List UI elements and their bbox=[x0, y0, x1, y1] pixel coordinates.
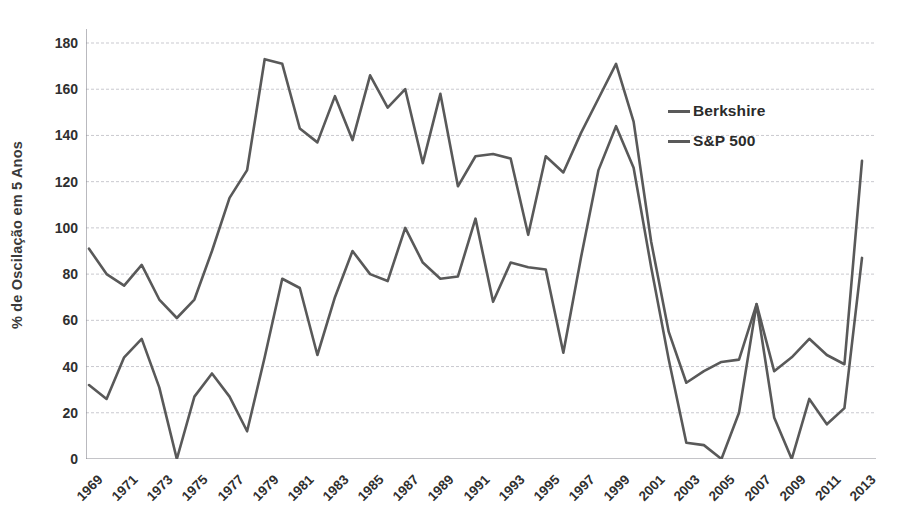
x-axis-tick-label: 1975 bbox=[172, 472, 211, 511]
y-axis-tick-label: 80 bbox=[18, 266, 78, 282]
y-axis-tick-label: 140 bbox=[18, 127, 78, 143]
chart-svg bbox=[86, 16, 876, 459]
x-axis-tick-label: 1983 bbox=[313, 472, 352, 511]
x-axis-tick-label: 1991 bbox=[453, 472, 492, 511]
x-axis-tick-labels: 1969197119731975197719791981198319851987… bbox=[0, 466, 919, 530]
y-axis-tick-label: 180 bbox=[18, 35, 78, 51]
x-axis-tick-label: 1977 bbox=[207, 472, 246, 511]
x-axis-tick-label: 1993 bbox=[488, 472, 527, 511]
legend-swatch-sp500 bbox=[668, 140, 690, 143]
y-axis-tick-label: 120 bbox=[18, 174, 78, 190]
x-axis-tick-label: 1973 bbox=[137, 472, 176, 511]
y-axis-tick-label: 100 bbox=[18, 220, 78, 236]
x-axis-tick-label: 2005 bbox=[699, 472, 738, 511]
x-axis-tick-label: 1995 bbox=[523, 472, 562, 511]
x-axis-tick-label: 1997 bbox=[559, 472, 598, 511]
y-axis-tick-labels: 020406080100120140160180 bbox=[14, 0, 78, 530]
series-line-s-p-500 bbox=[89, 126, 862, 459]
x-axis-tick-label: 2007 bbox=[734, 472, 773, 511]
y-axis-tick-label: 0 bbox=[18, 451, 78, 467]
y-axis-tick-label: 60 bbox=[18, 312, 78, 328]
x-axis-tick-label: 1981 bbox=[278, 472, 317, 511]
legend-item-sp500[interactable]: S&P 500 bbox=[668, 126, 765, 156]
x-axis-tick-label: 1985 bbox=[348, 472, 387, 511]
legend-item-berkshire[interactable]: Berkshire bbox=[668, 96, 765, 126]
legend-label-sp500: S&P 500 bbox=[693, 132, 755, 150]
x-axis-tick-label: 2013 bbox=[840, 472, 879, 511]
y-axis-tick-label: 40 bbox=[18, 359, 78, 375]
x-axis-tick-label: 2011 bbox=[805, 472, 844, 511]
plot-area bbox=[86, 16, 876, 459]
legend-label-berkshire: Berkshire bbox=[693, 102, 765, 120]
x-axis-tick-label: 1999 bbox=[594, 472, 633, 511]
x-axis-tick-label: 2003 bbox=[664, 472, 703, 511]
x-axis-tick-label: 1989 bbox=[418, 472, 457, 511]
legend-swatch-berkshire bbox=[668, 110, 690, 113]
x-axis-tick-label: 2009 bbox=[769, 472, 808, 511]
x-axis-tick-label: 2001 bbox=[629, 472, 668, 511]
x-axis-tick-label: 1969 bbox=[67, 472, 106, 511]
chart-container: % de Oscilação em 5 Anos 020406080100120… bbox=[0, 0, 919, 530]
y-axis-tick-label: 160 bbox=[18, 81, 78, 97]
y-axis-tick-label: 20 bbox=[18, 405, 78, 421]
x-axis-tick-label: 1979 bbox=[242, 472, 281, 511]
x-axis-tick-label: 1971 bbox=[102, 472, 141, 511]
chart-legend: Berkshire S&P 500 bbox=[668, 96, 765, 156]
x-axis-tick-label: 1987 bbox=[383, 472, 422, 511]
